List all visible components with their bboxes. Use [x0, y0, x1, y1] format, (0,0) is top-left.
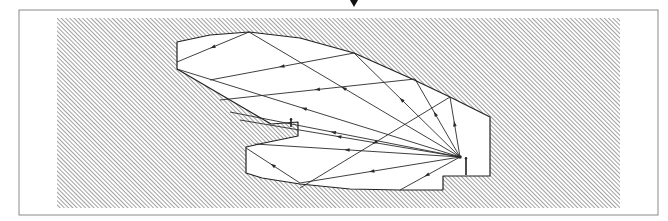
- stage-person-icon-body: [465, 159, 467, 175]
- stage-person-icon-head: [465, 157, 467, 159]
- down-triangle-icon: [350, 0, 358, 7]
- auditorium-section-diagram: [0, 0, 668, 221]
- balcony-person-icon-body: [290, 120, 292, 127]
- sound-source-icon: [458, 155, 462, 159]
- balcony-person-icon-head: [290, 118, 292, 120]
- top-marker-arrow-icon: [350, 0, 358, 7]
